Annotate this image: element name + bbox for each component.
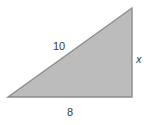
horizontal-leg-length-label: 8 (67, 107, 73, 118)
hypotenuse-length-label: 10 (53, 41, 65, 52)
triangle-shape (0, 0, 151, 125)
triangle-polygon (8, 8, 132, 97)
geometry-figure: 10 x 8 (0, 0, 151, 125)
vertical-leg-length-label: x (136, 54, 142, 65)
